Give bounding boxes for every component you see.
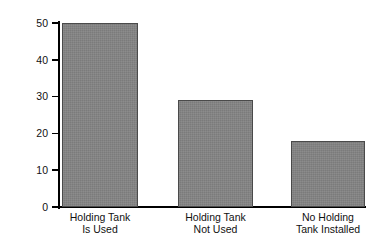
x-axis-label-0: Holding Tank Is Used — [40, 211, 160, 235]
y-axis-line — [58, 21, 60, 209]
x-axis-label-1: Holding Tank Not Used — [156, 211, 276, 235]
y-tick-0 — [52, 206, 59, 208]
y-tick-50 — [52, 22, 59, 24]
y-tick-label-10: 10 — [8, 165, 48, 176]
x-axis-label-2: No Holding Tank Installed — [268, 211, 380, 235]
bar-holding-tank-not-used — [178, 100, 253, 207]
bar-no-holding-tank-installed — [291, 141, 365, 207]
y-tick-label-50: 50 — [8, 18, 48, 29]
bar-chart: Percent 50 40 30 20 10 0 Holding Tank Is… — [0, 0, 380, 247]
y-tick-10 — [52, 169, 59, 171]
y-tick-20 — [52, 133, 59, 135]
bar-holding-tank-is-used — [62, 23, 138, 207]
y-tick-40 — [52, 59, 59, 61]
y-tick-label-40: 40 — [8, 55, 48, 66]
y-tick-30 — [52, 96, 59, 98]
y-tick-label-20: 20 — [8, 128, 48, 139]
y-tick-label-30: 30 — [8, 91, 48, 102]
